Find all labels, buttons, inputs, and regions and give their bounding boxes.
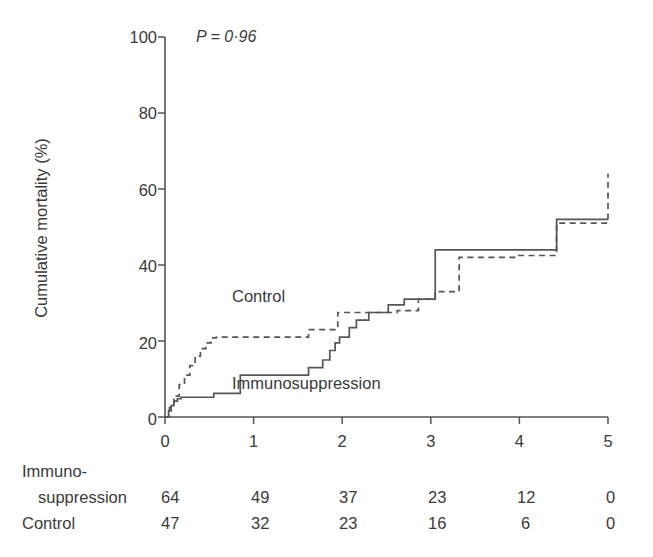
x-axis-ticks	[165, 417, 608, 424]
risk-value-control-y2: 23	[339, 514, 357, 533]
risk-value-control-y4: 6	[521, 514, 530, 533]
p-value-annotation: P = 0·96	[196, 28, 256, 45]
risk-label-control: Control	[22, 514, 75, 533]
x-tick-label-1: 1	[249, 432, 258, 450]
y-tick-label-40: 40	[139, 257, 157, 275]
risk-value-immuno-y1: 49	[251, 488, 269, 507]
table-row: Control 47 32 23 16 6 0	[0, 514, 653, 540]
risk-label-immuno-line2: suppression	[38, 488, 127, 507]
risk-value-immuno-y0: 64	[161, 488, 179, 507]
x-tick-label-4: 4	[515, 432, 524, 450]
risk-value-control-y3: 16	[428, 514, 446, 533]
risk-value-immuno-y4: 12	[517, 488, 535, 507]
y-axis-ticks	[158, 37, 165, 417]
y-tick-label-100: 100	[129, 28, 157, 46]
risk-value-immuno-y3: 23	[428, 488, 446, 507]
risk-row-immuno-line1: Immuno-	[0, 462, 653, 488]
risk-value-immuno-y2: 37	[339, 488, 357, 507]
risk-value-control-y1: 32	[251, 514, 269, 533]
y-tick-label-20: 20	[139, 334, 157, 352]
risk-value-immuno-y5: 0	[606, 488, 615, 507]
y-tick-label-80: 80	[139, 104, 157, 122]
x-tick-label-0: 0	[160, 432, 169, 450]
immunosuppression-series-label: Immunosuppression	[232, 374, 381, 392]
x-tick-label-2: 2	[338, 432, 347, 450]
y-tick-label-0: 0	[148, 410, 157, 428]
numbers-at-risk-table: Immuno- suppression 64 49 37 23 12 0 Con…	[0, 462, 653, 557]
risk-value-control-y5: 0	[606, 514, 615, 533]
x-tick-label-5: 5	[603, 432, 612, 450]
x-tick-label-3: 3	[426, 432, 435, 450]
y-tick-label-60: 60	[139, 181, 157, 199]
cumulative-mortality-chart: 100 80 60 40 20 0 0 1 2 3 4 5 Cumulative…	[0, 0, 653, 462]
risk-value-control-y0: 47	[161, 514, 179, 533]
table-row: suppression 64 49 37 23 12 0	[0, 488, 653, 514]
axis-lines	[165, 37, 608, 417]
control-series-label: Control	[232, 287, 285, 305]
risk-label-immuno-line1: Immuno-	[22, 462, 87, 481]
kaplan-meier-figure: 100 80 60 40 20 0 0 1 2 3 4 5 Cumulative…	[0, 0, 653, 557]
y-axis-title: Cumulative mortality (%)	[32, 138, 50, 318]
